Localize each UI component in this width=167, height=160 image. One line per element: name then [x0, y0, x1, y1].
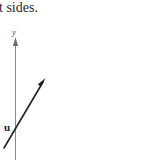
y-axis-label: y [12, 27, 16, 37]
vector-diagram [0, 0, 167, 160]
vector-u [4, 78, 46, 148]
y-axis-arrowhead-icon [13, 37, 18, 46]
y-axis [13, 37, 18, 160]
vector-u-arrowhead-icon [38, 78, 46, 87]
vector-u-label: u [4, 121, 10, 133]
